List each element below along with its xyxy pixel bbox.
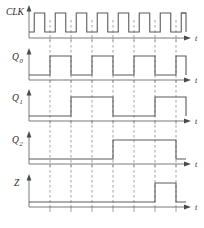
q1-y-arrow-icon <box>27 89 32 96</box>
signal-label-q1-subscript: 1 <box>20 98 23 105</box>
signal-label-q0: Q <box>12 52 19 62</box>
waveform-row-z: Z t <box>14 174 198 212</box>
q2-y-arrow-icon <box>27 131 32 138</box>
q2-time-label: t <box>195 160 198 169</box>
clk-y-arrow-icon <box>27 5 32 12</box>
q1-t-arrow-icon <box>184 118 191 123</box>
q0-time-label: t <box>195 76 198 85</box>
q0-y-arrow-icon <box>27 48 32 55</box>
q0-t-arrow-icon <box>184 77 191 82</box>
waveform-row-q0: Q 0 t <box>12 48 198 85</box>
timing-diagram: CLK t Q 0 t <box>0 0 204 228</box>
z-waveform <box>29 183 186 202</box>
clk-t-arrow-icon <box>184 35 191 40</box>
clk-waveform <box>29 13 186 32</box>
signal-label-q1: Q <box>12 93 19 103</box>
signal-label-q2: Q <box>12 135 19 145</box>
waveform-row-clk: CLK t <box>6 5 198 43</box>
signal-label-q2-subscript: 2 <box>20 140 24 147</box>
signal-label-z: Z <box>14 178 20 188</box>
q1-waveform <box>29 97 186 116</box>
z-t-arrow-icon <box>184 204 191 209</box>
signal-label-clk: CLK <box>6 7 25 17</box>
waveform-row-q1: Q 1 t <box>12 89 198 126</box>
q1-time-label: t <box>195 117 198 126</box>
waveform-row-q2: Q 2 t <box>12 131 198 169</box>
clk-time-label: t <box>195 34 198 43</box>
clk-waveform-tail <box>181 13 186 32</box>
z-y-arrow-icon <box>27 174 32 181</box>
z-time-label: t <box>195 203 198 212</box>
signal-label-q0-subscript: 0 <box>20 57 24 64</box>
q0-waveform <box>29 56 186 75</box>
q2-t-arrow-icon <box>184 161 191 166</box>
q2-waveform <box>29 140 186 159</box>
